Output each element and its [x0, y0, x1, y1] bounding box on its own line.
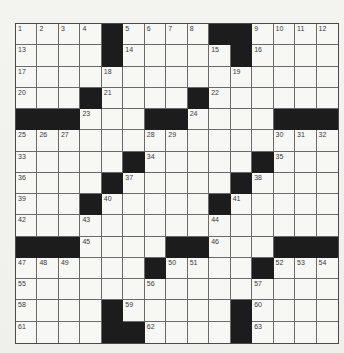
- crossword-cell[interactable]: [252, 215, 273, 236]
- crossword-cell[interactable]: [274, 300, 295, 321]
- crossword-cell[interactable]: 44: [209, 215, 230, 236]
- crossword-cell[interactable]: 24: [188, 109, 209, 130]
- crossword-cell[interactable]: 50: [166, 258, 187, 279]
- crossword-cell[interactable]: 27: [59, 130, 80, 151]
- crossword-cell[interactable]: [317, 173, 338, 194]
- crossword-cell[interactable]: [231, 88, 252, 109]
- crossword-cell[interactable]: 31: [295, 130, 316, 151]
- crossword-cell[interactable]: 49: [59, 258, 80, 279]
- crossword-cell[interactable]: [209, 152, 230, 173]
- crossword-cell[interactable]: 38: [252, 173, 273, 194]
- crossword-cell[interactable]: [123, 279, 144, 300]
- crossword-cell[interactable]: [59, 45, 80, 66]
- crossword-cell[interactable]: 10: [274, 24, 295, 45]
- crossword-cell[interactable]: [166, 279, 187, 300]
- crossword-cell[interactable]: [166, 67, 187, 88]
- crossword-cell[interactable]: [102, 152, 123, 173]
- crossword-cell[interactable]: [252, 67, 273, 88]
- crossword-cell[interactable]: [209, 300, 230, 321]
- crossword-cell[interactable]: [188, 322, 209, 343]
- crossword-cell[interactable]: [102, 258, 123, 279]
- crossword-cell[interactable]: [166, 322, 187, 343]
- crossword-cell[interactable]: [80, 322, 101, 343]
- crossword-cell[interactable]: 35: [274, 152, 295, 173]
- crossword-cell[interactable]: 30: [274, 130, 295, 151]
- crossword-cell[interactable]: [59, 88, 80, 109]
- crossword-cell[interactable]: [145, 237, 166, 258]
- crossword-cell[interactable]: [102, 237, 123, 258]
- crossword-cell[interactable]: [295, 67, 316, 88]
- crossword-cell[interactable]: [252, 130, 273, 151]
- crossword-cell[interactable]: 51: [188, 258, 209, 279]
- crossword-cell[interactable]: [37, 322, 58, 343]
- crossword-cell[interactable]: [295, 173, 316, 194]
- crossword-cell[interactable]: [80, 152, 101, 173]
- crossword-cell[interactable]: [37, 152, 58, 173]
- crossword-cell[interactable]: [59, 152, 80, 173]
- crossword-cell[interactable]: [274, 173, 295, 194]
- crossword-cell[interactable]: [188, 194, 209, 215]
- crossword-cell[interactable]: [274, 67, 295, 88]
- crossword-cell[interactable]: [80, 173, 101, 194]
- crossword-cell[interactable]: [231, 258, 252, 279]
- crossword-cell[interactable]: [59, 300, 80, 321]
- crossword-cell[interactable]: [231, 237, 252, 258]
- crossword-cell[interactable]: 7: [166, 24, 187, 45]
- crossword-cell[interactable]: 63: [252, 322, 273, 343]
- crossword-cell[interactable]: [145, 45, 166, 66]
- crossword-cell[interactable]: [274, 88, 295, 109]
- crossword-cell[interactable]: 46: [209, 237, 230, 258]
- crossword-cell[interactable]: [188, 152, 209, 173]
- crossword-cell[interactable]: [59, 67, 80, 88]
- crossword-cell[interactable]: [209, 130, 230, 151]
- crossword-cell[interactable]: [231, 279, 252, 300]
- crossword-cell[interactable]: 8: [188, 24, 209, 45]
- crossword-cell[interactable]: 37: [123, 173, 144, 194]
- crossword-cell[interactable]: [59, 215, 80, 236]
- crossword-cell[interactable]: [145, 300, 166, 321]
- crossword-cell[interactable]: 16: [252, 45, 273, 66]
- crossword-cell[interactable]: [123, 237, 144, 258]
- crossword-cell[interactable]: 55: [16, 279, 37, 300]
- crossword-cell[interactable]: 47: [16, 258, 37, 279]
- crossword-cell[interactable]: [231, 152, 252, 173]
- crossword-cell[interactable]: 9: [252, 24, 273, 45]
- crossword-cell[interactable]: [209, 67, 230, 88]
- crossword-cell[interactable]: [295, 152, 316, 173]
- crossword-cell[interactable]: 5: [123, 24, 144, 45]
- crossword-cell[interactable]: 21: [102, 88, 123, 109]
- crossword-cell[interactable]: [166, 45, 187, 66]
- crossword-cell[interactable]: [252, 194, 273, 215]
- crossword-cell[interactable]: [123, 194, 144, 215]
- crossword-cell[interactable]: 39: [16, 194, 37, 215]
- crossword-cell[interactable]: [295, 88, 316, 109]
- crossword-cell[interactable]: [123, 215, 144, 236]
- crossword-cell[interactable]: [166, 300, 187, 321]
- crossword-cell[interactable]: 17: [16, 67, 37, 88]
- crossword-cell[interactable]: [252, 88, 273, 109]
- crossword-cell[interactable]: [317, 279, 338, 300]
- crossword-cell[interactable]: 57: [252, 279, 273, 300]
- crossword-cell[interactable]: 2: [37, 24, 58, 45]
- crossword-cell[interactable]: [274, 322, 295, 343]
- crossword-cell[interactable]: [209, 322, 230, 343]
- crossword-cell[interactable]: 48: [37, 258, 58, 279]
- crossword-cell[interactable]: 28: [145, 130, 166, 151]
- crossword-cell[interactable]: 18: [102, 67, 123, 88]
- crossword-cell[interactable]: [188, 67, 209, 88]
- crossword-cell[interactable]: 62: [145, 322, 166, 343]
- crossword-cell[interactable]: 25: [16, 130, 37, 151]
- crossword-cell[interactable]: [274, 279, 295, 300]
- crossword-cell[interactable]: 15: [209, 45, 230, 66]
- crossword-cell[interactable]: [80, 258, 101, 279]
- crossword-cell[interactable]: [317, 300, 338, 321]
- crossword-cell[interactable]: [37, 215, 58, 236]
- crossword-cell[interactable]: 36: [16, 173, 37, 194]
- crossword-cell[interactable]: 6: [145, 24, 166, 45]
- crossword-cell[interactable]: [188, 130, 209, 151]
- crossword-cell[interactable]: 58: [16, 300, 37, 321]
- crossword-cell[interactable]: [123, 88, 144, 109]
- crossword-cell[interactable]: 29: [166, 130, 187, 151]
- crossword-cell[interactable]: 45: [80, 237, 101, 258]
- crossword-cell[interactable]: [209, 109, 230, 130]
